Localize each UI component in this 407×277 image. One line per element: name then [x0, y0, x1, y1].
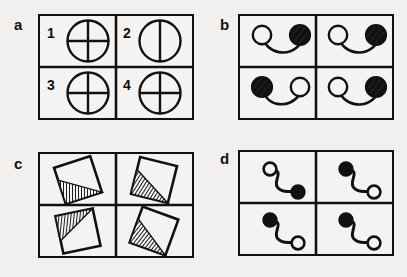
panel-label-d: d: [220, 151, 229, 166]
panel-d: d: [220, 146, 398, 264]
panel-c-cell-2: [131, 157, 177, 203]
panel-b-cell-2: [329, 25, 386, 52]
panel-c-cell-1: [54, 156, 102, 204]
panel-a-grid: [40, 16, 192, 118]
panel-a-cell-1: [68, 21, 109, 62]
panel-a-cell-number-3: 3: [47, 78, 55, 92]
panel-d-cell-2: [339, 162, 380, 198]
panel-a-cell-4: [140, 73, 181, 114]
panel-b-box: [238, 14, 394, 120]
panel-c-grid: [40, 154, 192, 256]
panel-a-cell-number-2: 2: [123, 26, 131, 40]
panel-d-box: [238, 150, 394, 256]
panel-a-cell-2: [140, 21, 181, 62]
panel-b-cell-4: [329, 77, 386, 104]
panel-b-cell-3: [252, 77, 309, 104]
panel-a-cell-number-1: 1: [47, 26, 55, 40]
panel-a-box: 1 2 3 4: [38, 14, 194, 120]
panel-b-cell-1: [253, 25, 310, 52]
panel-d-cell-3: [263, 213, 304, 249]
panel-d-cell-4: [339, 213, 380, 249]
panel-label-b: b: [220, 17, 229, 32]
panel-c-cell-3: [55, 208, 100, 253]
panel-d-cell-1: [264, 163, 305, 199]
panel-a-cell-number-4: 4: [123, 78, 131, 92]
panel-a: a: [14, 10, 196, 122]
panel-b-grid: [240, 16, 392, 118]
figure-canvas: a: [0, 0, 407, 277]
panel-c-box: [38, 152, 194, 258]
panel-a-cell-3: [68, 73, 109, 114]
panel-label-a: a: [14, 17, 22, 32]
panel-label-c: c: [14, 156, 22, 171]
panel-c: c: [14, 146, 196, 264]
panel-d-grid: [240, 152, 392, 254]
panel-b: b: [220, 10, 398, 122]
panel-c-cell-4: [130, 207, 179, 256]
